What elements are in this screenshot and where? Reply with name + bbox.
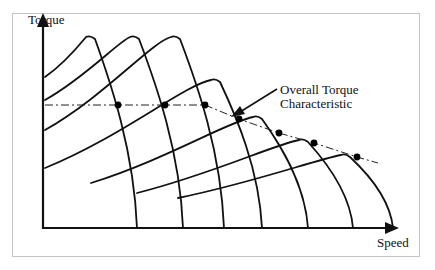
torque-curve-c2 xyxy=(45,36,183,228)
operating-point-dot xyxy=(202,102,209,109)
operating-point-dot xyxy=(354,154,361,161)
operating-point-dot xyxy=(115,102,122,109)
operating-point-dot xyxy=(162,102,169,109)
y-axis-label: Torque xyxy=(28,13,65,27)
annotation-arrow-line xyxy=(240,89,277,112)
torque-curve-c1 xyxy=(45,36,137,228)
operating-point-dot xyxy=(311,140,318,147)
operating-point-dot xyxy=(276,130,283,137)
annotation-label: Overall Torque Characteristic xyxy=(280,83,359,110)
annotation-line-1: Overall Torque xyxy=(280,83,359,97)
figure-frame xyxy=(13,14,420,257)
torque-curves xyxy=(45,36,393,228)
x-axis-label: Speed xyxy=(377,236,409,250)
torque-curve-c7 xyxy=(178,154,393,228)
operating-point-dot xyxy=(236,116,243,123)
annotation-line-2: Characteristic xyxy=(280,97,359,111)
torque-curve-c4 xyxy=(45,79,262,228)
torque-speed-diagram xyxy=(0,0,435,270)
